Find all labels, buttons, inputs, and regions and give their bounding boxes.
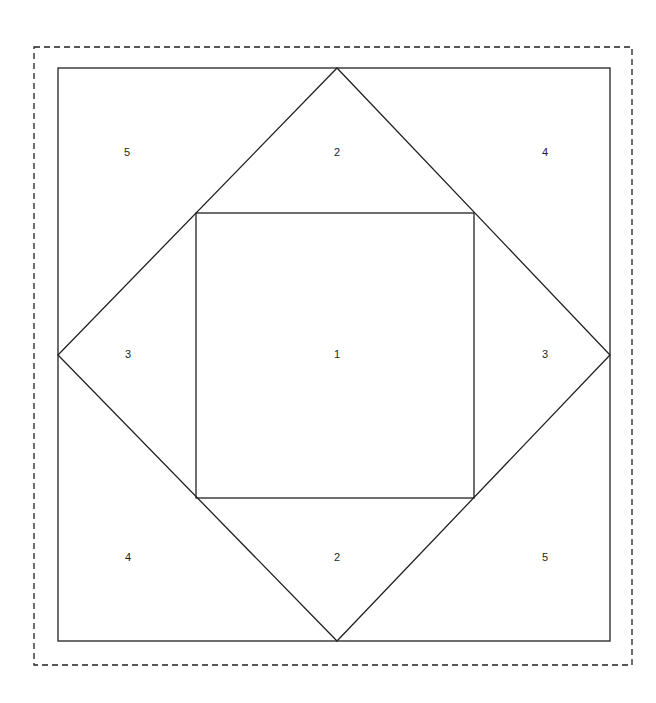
region-2-top-center: 2: [334, 146, 340, 158]
region-5-top-left: 5: [124, 146, 130, 158]
region-5-bottom-right: 5: [542, 551, 548, 563]
region-2-bottom-center: 2: [334, 551, 340, 563]
region-1-center: 1: [334, 348, 340, 360]
region-3-middle-right: 3: [542, 348, 548, 360]
figure-canvas: 524313425: [0, 0, 656, 703]
region-4-top-right: 4: [542, 146, 548, 158]
region-3-middle-left: 3: [125, 348, 131, 360]
geometric-figure: 524313425: [0, 0, 656, 703]
region-4-bottom-left: 4: [125, 551, 131, 563]
region-labels: 524313425: [124, 146, 548, 563]
